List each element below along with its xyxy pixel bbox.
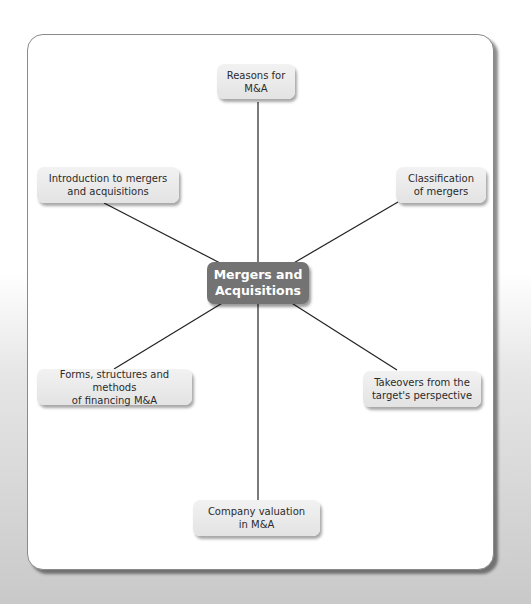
node-introduction[interactable]: Introduction to mergersand acquisitions: [37, 167, 179, 203]
node-label: of financing M&A: [43, 394, 186, 407]
central-label-line2: Acquisitions: [214, 283, 303, 299]
node-label: Forms, structures and methods: [43, 368, 186, 394]
central-node[interactable]: Mergers and Acquisitions: [207, 262, 309, 304]
node-takeovers[interactable]: Takeovers from thetarget's perspective: [363, 371, 481, 407]
link-forms: [114, 302, 224, 369]
node-label: in M&A: [208, 518, 305, 531]
node-reasons-for-ma[interactable]: Reasons forM&A: [217, 64, 295, 99]
link-takeovers: [290, 302, 397, 370]
node-label: M&A: [227, 82, 286, 95]
node-label: Introduction to mergers: [49, 172, 168, 185]
node-forms-structures[interactable]: Forms, structures and methodsof financin…: [37, 369, 192, 405]
central-label-line1: Mergers and: [214, 267, 303, 283]
node-label: Company valuation: [208, 505, 305, 518]
link-classification: [292, 202, 398, 264]
node-company-valuation[interactable]: Company valuationin M&A: [193, 500, 320, 536]
node-label: of mergers: [408, 185, 474, 198]
node-label: Reasons for: [227, 69, 286, 82]
node-label: Classification: [408, 172, 474, 185]
node-label: target's perspective: [372, 389, 472, 402]
node-classification[interactable]: Classificationof mergers: [396, 167, 486, 203]
link-introduction: [104, 203, 222, 264]
node-label: Takeovers from the: [372, 376, 472, 389]
node-label: and acquisitions: [49, 185, 168, 198]
